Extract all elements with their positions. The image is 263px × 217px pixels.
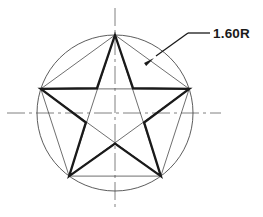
leader-line-group bbox=[144, 33, 210, 66]
leader-slant-segment bbox=[156, 33, 188, 56]
construction-chord bbox=[115, 35, 189, 89]
technical-drawing-canvas: 1.60R bbox=[0, 0, 263, 217]
radius-dimension-label: 1.60R bbox=[213, 27, 250, 41]
construction-chord bbox=[41, 35, 115, 89]
